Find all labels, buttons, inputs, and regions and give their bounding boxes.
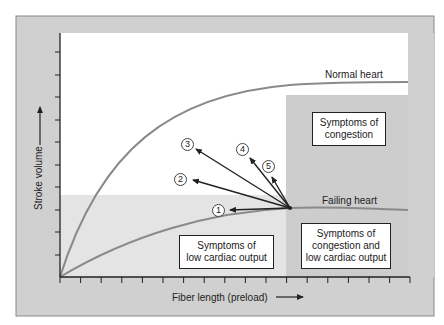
combined-line3: low cardiac output: [306, 252, 387, 264]
normal-heart-label: Normal heart: [325, 69, 383, 81]
marker-4: 4: [236, 143, 249, 156]
marker-5: 5: [262, 160, 275, 173]
combined-line2: congestion and: [312, 240, 380, 252]
marker-3: 3: [181, 138, 194, 151]
marker-2: 2: [174, 173, 187, 186]
combined-line1: Symptoms of: [317, 228, 375, 240]
diagram-canvas: [0, 0, 444, 325]
failing-heart-label: Failing heart: [322, 195, 377, 207]
congestion-line1: Symptoms of: [320, 117, 378, 129]
low-output-line2: low cardiac output: [186, 252, 267, 264]
marker-1: 1: [212, 204, 225, 217]
frame-right: [408, 33, 434, 277]
frank-starling-diagram: Normal heart Failing heart Fiber length …: [0, 0, 444, 325]
low-output-box: Symptoms of low cardiac output: [179, 235, 274, 269]
y-axis-label: Stroke volume: [33, 146, 44, 210]
x-axis-label: Fiber length (preload): [172, 292, 268, 304]
congestion-box: Symptoms of congestion: [312, 112, 386, 146]
congestion-line2: congestion: [325, 129, 373, 141]
congestion-low-output-box: Symptoms of congestion and low cardiac o…: [301, 223, 391, 269]
operating-point: [288, 206, 292, 210]
low-output-line1: Symptoms of: [197, 240, 255, 252]
